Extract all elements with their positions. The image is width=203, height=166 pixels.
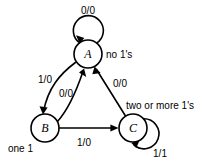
state-label-a: A [83,47,92,61]
arrowhead-a-to-b [40,106,48,114]
edge-label-c-to-a: 0/0 [113,78,127,89]
state-node-a[interactable]: A [74,40,102,68]
edge-label-c-self-loop: 1/1 [153,148,167,159]
transition-c-to-a: 0/0 [92,67,127,117]
edge-label-b-to-a: 0/0 [59,88,73,99]
arrowhead-b-to-c [110,125,118,132]
state-node-b[interactable]: B [31,114,59,142]
edge-label-a-to-b: 1/0 [38,74,52,85]
edge-label-b-to-c: 1/0 [77,137,91,148]
state-label-c: C [129,121,138,135]
fsm-canvas: 0/0 1/0 0/0 1/0 0/0 [0,0,203,166]
edge-path-c-to-a [97,70,126,117]
state-label-b: B [41,121,49,135]
state-note-c: two or more 1's [126,100,194,111]
transition-b-to-a: 0/0 [58,68,87,121]
transition-b-to-c: 1/0 [60,125,119,148]
state-note-b: one 1 [8,143,33,154]
edge-label-a-self-loop: 0/0 [81,5,95,16]
state-node-c[interactable]: C [119,114,147,142]
state-machine-diagram: 0/0 1/0 0/0 1/0 0/0 [0,0,203,166]
arrowhead-b-to-a [79,68,86,77]
state-note-a: no 1's [106,49,132,60]
transition-a-to-a: 0/0 [73,5,103,44]
